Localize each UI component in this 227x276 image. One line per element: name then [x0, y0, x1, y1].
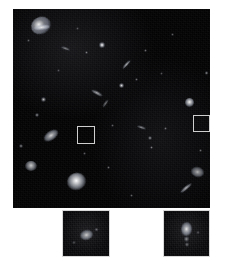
deep-field-main-panel	[13, 9, 210, 208]
figure-root	[0, 0, 227, 276]
marker-box-right[interactable]	[193, 115, 210, 132]
inset-right-object-core	[180, 222, 192, 237]
inset-right	[163, 210, 210, 257]
inset-left-object	[79, 228, 94, 241]
inset-left	[62, 210, 110, 257]
inset-left-faint-1	[94, 228, 99, 231]
inset-right-faint-1	[196, 231, 200, 234]
inset-right-source-layer	[164, 211, 209, 256]
inset-right-tail-2	[185, 242, 189, 247]
marker-box-left[interactable]	[77, 126, 95, 144]
detector-noise-overlay	[13, 9, 210, 208]
inset-left-faint-2	[72, 241, 76, 244]
inset-left-source-layer	[63, 211, 109, 256]
inset-right-tail-1	[184, 236, 189, 242]
